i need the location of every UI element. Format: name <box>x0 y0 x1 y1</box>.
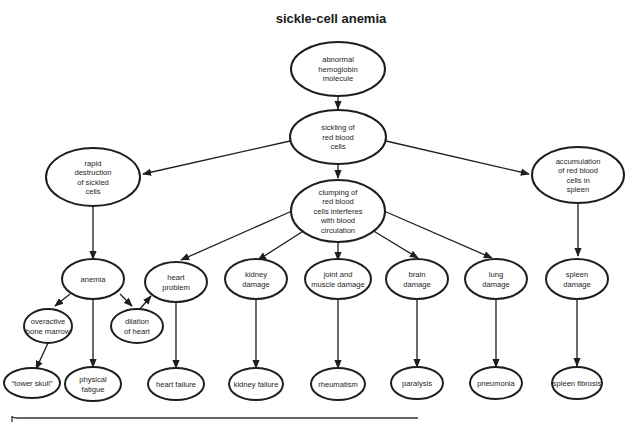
node-label-line: of sickled <box>77 178 109 187</box>
node-kidney-failure: kidney failure <box>229 368 283 400</box>
node-tower-skull: “tower skull” <box>4 368 60 398</box>
node-spleen-damage: spleendamage <box>546 259 608 299</box>
node-label-line: fatigue <box>82 385 105 394</box>
node-label-line: spleen fibrosis <box>553 379 602 388</box>
node-paralysis: paralysis <box>391 367 443 399</box>
edge-dilation-to-heart-problem <box>140 296 151 309</box>
node-label-line: molecule <box>323 74 353 83</box>
node-anemia: anemia <box>62 259 124 299</box>
node-label-line: cells <box>85 187 100 196</box>
node-label-line: brain <box>409 270 426 279</box>
sickle-cell-concept-map: sickle-cell anemia abnormalhemoglobinmol… <box>0 0 634 422</box>
diagram-title: sickle-cell anemia <box>276 11 387 26</box>
node-label-line: red blood <box>322 197 354 206</box>
edge-marrow-to-tower-skull <box>36 343 48 369</box>
node-heart-failure: heart failure <box>148 368 204 400</box>
node-label-line: kidney failure <box>234 380 279 389</box>
node-clumping: clumping ofred bloodcells interfereswith… <box>291 180 385 242</box>
node-label-line: abnormal <box>322 55 354 64</box>
node-label-line: cells interferes <box>314 207 363 216</box>
node-abnormal-hemoglobin: abnormalhemoglobinmolecule <box>291 42 385 96</box>
edge-anemia-to-dilation <box>120 294 132 306</box>
edge-anemia-to-marrow <box>55 294 70 306</box>
node-label-line: sickling of <box>321 123 355 132</box>
edge-clumping-to-kidney-damage <box>258 230 305 260</box>
node-label-line: destruction <box>74 168 111 177</box>
node-label-line: muscle damage <box>311 280 365 289</box>
node-label-line: overactive <box>31 317 66 326</box>
node-label-line: rheumatism <box>318 380 358 389</box>
node-heart-problem: heartproblem <box>145 262 207 302</box>
node-label-line: clumping of <box>319 188 359 197</box>
node-label-line: spleen <box>566 270 588 279</box>
node-label-line: dilation <box>125 317 149 326</box>
node-label-line: heart <box>167 273 185 282</box>
node-label-line: kidney <box>245 270 267 279</box>
node-label-line: problem <box>162 283 189 292</box>
node-label-line: with blood <box>320 216 355 225</box>
node-label-line: paralysis <box>402 379 432 388</box>
node-spleen-fibrosis: spleen fibrosis <box>552 367 602 399</box>
node-label-line: of heart <box>124 327 151 336</box>
node-label-line: lung <box>489 270 503 279</box>
node-label-line: “tower skull” <box>12 379 53 388</box>
node-accumulation: accumulationof red bloodcells inspleen <box>532 147 624 203</box>
edge-sickling-to-destruction <box>143 141 290 174</box>
node-label-line: damage <box>482 280 509 289</box>
node-rheumatism: rheumatism <box>311 368 365 400</box>
node-lung-damage: lungdamage <box>465 259 527 299</box>
node-rapid-destruction: rapiddestructionof sickledcells <box>46 148 140 206</box>
edge-sickling-to-accumulation <box>386 141 529 174</box>
node-overactive-marrow: overactivebone marrow <box>24 309 72 343</box>
node-joint-muscle-damage: joint andmuscle damage <box>305 259 371 299</box>
node-label-line: physical <box>79 375 107 384</box>
node-label-line: bone marrow <box>26 327 71 336</box>
node-label-line: heart failure <box>156 380 196 389</box>
node-kidney-damage: kidneydamage <box>225 259 287 299</box>
node-pneumonia: pneumonia <box>470 367 522 399</box>
node-sickling: sickling ofred bloodcells <box>290 110 386 164</box>
edge-clumping-to-heart-problem <box>181 211 292 260</box>
node-label-line: accumulation <box>556 157 601 166</box>
node-physical-fatigue: physicalfatigue <box>65 367 121 401</box>
node-label-line: damage <box>563 280 590 289</box>
node-label-line: spleen <box>567 185 589 194</box>
node-brain-damage: braindamage <box>386 259 448 299</box>
node-label-line: circulation <box>321 226 355 235</box>
node-dilation-heart: dilationof heart <box>111 309 163 343</box>
node-label-line: damage <box>242 280 269 289</box>
node-label-line: damage <box>403 280 430 289</box>
node-label-line: of red blood <box>558 166 598 175</box>
node-label-line: rapid <box>85 159 102 168</box>
node-label-line: red blood <box>322 133 354 142</box>
node-label-line: hemoglobin <box>318 65 357 74</box>
node-label-line: anemia <box>81 275 107 284</box>
bottom-frame-line <box>12 416 418 422</box>
node-label-line: joint and <box>323 270 353 279</box>
node-label-line: cells in <box>566 176 589 185</box>
node-label-line: pneumonia <box>477 379 515 388</box>
edge-clumping-to-brain-damage <box>372 230 418 258</box>
node-label-line: cells <box>330 142 345 151</box>
edge-clumping-to-lung-damage <box>384 211 492 258</box>
